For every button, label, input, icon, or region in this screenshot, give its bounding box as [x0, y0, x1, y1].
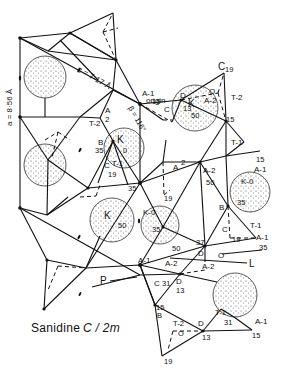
- label-a2: A-2: [204, 96, 217, 105]
- vertex: [226, 204, 229, 207]
- vertex: [45, 258, 48, 261]
- label-height: 19: [164, 357, 172, 366]
- label-t1: T-1: [215, 308, 226, 317]
- label-a1: A-1: [255, 317, 268, 326]
- label-d: D: [176, 277, 182, 286]
- vertex: [114, 58, 117, 61]
- label-a-index: 2: [105, 115, 110, 124]
- atom-label: K: [188, 98, 195, 109]
- label-height: 50: [172, 244, 180, 253]
- axis-marker: [77, 234, 81, 239]
- label-height: 35: [237, 198, 245, 207]
- label-o: O: [209, 87, 215, 96]
- label-o: O: [218, 251, 224, 260]
- label-a: A: [105, 106, 111, 115]
- label-l: L: [249, 258, 255, 269]
- label-c: C: [154, 279, 160, 288]
- caption-spacegroup: C / 2m: [83, 321, 120, 335]
- label-height: 35: [95, 146, 103, 155]
- atom-height: 50: [118, 221, 126, 230]
- vertex: [18, 36, 22, 40]
- label-a2: A-2: [165, 259, 178, 268]
- label-d: D: [180, 91, 186, 100]
- label-height: 35: [128, 184, 136, 193]
- label-t1: T-1: [231, 138, 243, 147]
- label-height: 13: [176, 286, 184, 295]
- vertex: [161, 225, 164, 228]
- label-d: D: [198, 319, 204, 328]
- label-height: 13: [202, 333, 210, 342]
- atom-label: K-0: [241, 177, 254, 186]
- axis-marker: [78, 147, 82, 152]
- label-height: 19: [225, 65, 233, 74]
- vertex: [42, 307, 45, 310]
- vertex: [198, 160, 201, 163]
- vertex: [138, 181, 142, 185]
- label-height: 50: [206, 178, 214, 187]
- label-a1: A-1: [254, 165, 267, 174]
- label-a1: A-1: [138, 256, 151, 265]
- axis-marker: [19, 75, 21, 80]
- label-height: 15: [226, 115, 234, 124]
- label-t1: T-1: [250, 221, 262, 230]
- c-axis-label: c = 7·17 Å: [76, 65, 113, 91]
- structure-diagram: c = 7·17 Å a = 8·56 Å β = 116° A-1 origi…: [0, 0, 281, 376]
- label-b: B: [157, 311, 162, 320]
- label-height: 19: [164, 194, 172, 203]
- vertex: [86, 186, 89, 189]
- atom-label: K-0: [143, 208, 156, 217]
- vertex: [68, 31, 71, 34]
- label-height: 31: [162, 279, 170, 288]
- label-height: 19: [108, 170, 116, 179]
- axis-marker: [138, 219, 140, 224]
- atom-height: 35: [152, 225, 160, 234]
- axis-marker: [78, 292, 82, 297]
- a-axis-label: a = 8·56 Å: [5, 88, 14, 126]
- label-height: 15: [152, 97, 160, 106]
- label-a1: A-1: [256, 233, 269, 242]
- vertex: [178, 272, 181, 275]
- figure-caption: Sanidine C / 2m: [31, 321, 120, 335]
- label-height: 31: [224, 318, 232, 327]
- k-atom: [24, 144, 66, 186]
- label-a: A: [173, 163, 179, 172]
- label-c: C: [104, 161, 110, 170]
- label-a2: A-2: [202, 262, 215, 271]
- label-t2: T-2: [231, 93, 243, 102]
- vertex: [138, 102, 142, 106]
- label-a2: A-2: [203, 166, 216, 175]
- label-o: O: [178, 329, 184, 338]
- k-atom: [24, 56, 66, 98]
- label-b: B: [219, 203, 224, 212]
- label-t2: T-2: [89, 119, 101, 128]
- vertex: [18, 206, 22, 210]
- atom-height: 50: [191, 111, 199, 120]
- label-height: 15: [252, 331, 260, 340]
- atom-height: 0: [123, 146, 127, 155]
- vertex: [18, 115, 22, 119]
- label-height: 15: [256, 155, 264, 164]
- label-p: P: [100, 275, 107, 286]
- label-height: 19: [232, 235, 240, 244]
- label-t2: T-2: [173, 319, 184, 328]
- label-c: C: [222, 225, 228, 234]
- label-c: C: [164, 105, 170, 114]
- label-t1: T-1: [112, 159, 123, 168]
- k-atom: [90, 198, 134, 242]
- atom-label: K: [117, 134, 124, 145]
- label-height: 37: [196, 238, 204, 247]
- caption-mineral: Sanidine: [31, 321, 80, 335]
- sanidine-structure-figure: c = 7·17 Å a = 8·56 Å β = 116° A-1 origi…: [0, 0, 281, 376]
- label-height: 35: [259, 243, 267, 252]
- vertex: [111, 139, 114, 142]
- label-a-index: 2: [181, 158, 186, 167]
- label-d: D: [198, 249, 204, 258]
- atom-label: K: [104, 210, 111, 221]
